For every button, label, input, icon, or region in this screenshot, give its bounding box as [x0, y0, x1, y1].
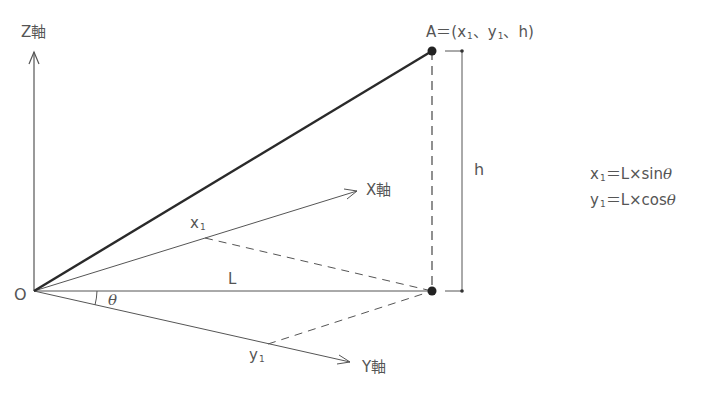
x1-label: x1 — [190, 216, 206, 232]
y1-var: y — [249, 346, 258, 364]
origin-label: O — [14, 287, 27, 303]
height-dimension — [445, 49, 464, 293]
y-axis-label: Y軸 — [362, 360, 386, 375]
y1-label: y1 — [249, 348, 265, 364]
point-a-y: y — [488, 23, 497, 41]
x-axis-label: X軸 — [366, 183, 391, 198]
dashed-x1-projection — [205, 238, 432, 291]
height-label: h — [474, 162, 484, 178]
point-a-dot-icon — [428, 47, 437, 56]
point-a-x: x — [457, 23, 466, 41]
angle-arc-icon — [95, 291, 97, 305]
formula-x1-var: x — [590, 165, 599, 183]
formula-x1: x1＝L×sinθ — [590, 167, 672, 183]
z-axis-label: Z軸 — [21, 25, 46, 40]
line-o-to-a — [34, 51, 432, 291]
formula-x1-expr: ＝L×sin — [606, 165, 663, 183]
y1-sub: 1 — [259, 354, 265, 364]
point-a-sep2: 、 — [503, 23, 518, 41]
formula-y1-var: y — [590, 191, 599, 209]
angle-theta-label: θ — [108, 293, 117, 308]
x1-sub: 1 — [200, 222, 206, 232]
z-axis — [29, 52, 39, 291]
point-a-suffix: ) — [528, 23, 534, 41]
x1-var: x — [190, 214, 199, 232]
dashed-y1-projection — [268, 291, 432, 344]
length-label: L — [228, 272, 236, 287]
point-a-prefix: A＝( — [426, 23, 457, 41]
point-a-label: A＝(x1、y1、h) — [426, 25, 534, 41]
point-b-dot-icon — [428, 287, 437, 296]
formula-y1: y1＝L×cosθ — [590, 193, 676, 209]
formula-x1-theta: θ — [663, 165, 672, 183]
x-axis — [34, 189, 357, 291]
y-axis — [34, 291, 350, 364]
point-a-h: h — [518, 23, 528, 41]
point-a-sep1: 、 — [473, 23, 488, 41]
formula-y1-theta: θ — [667, 191, 676, 209]
formula-y1-expr: ＝L×cos — [606, 191, 667, 209]
